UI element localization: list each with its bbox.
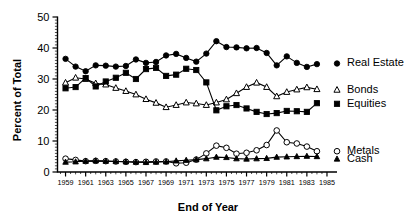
series-equities xyxy=(63,65,320,116)
y-tick-label: 50 xyxy=(37,11,49,23)
marker-filled-circle xyxy=(153,59,158,64)
marker-filled-square xyxy=(63,86,68,91)
marker-filled-circle xyxy=(264,50,269,55)
marker-filled-circle xyxy=(73,64,78,69)
y-tick-label: 10 xyxy=(37,135,49,147)
marker-filled-square xyxy=(184,66,189,71)
x-tick-label: 1969 xyxy=(158,178,174,187)
marker-filled-circle xyxy=(143,60,148,65)
series-real-estate xyxy=(63,38,320,73)
marker-filled-square xyxy=(93,84,98,89)
x-tick-label: 1961 xyxy=(78,178,94,187)
series-line xyxy=(66,68,317,114)
x-tick-labels: 1959196119631965196719691971197319751977… xyxy=(58,178,335,187)
marker-filled-circle xyxy=(254,45,259,50)
marker-filled-circle xyxy=(194,59,199,64)
x-tick-label: 1983 xyxy=(299,178,315,187)
y-tick-label: 0 xyxy=(43,166,49,178)
marker-open-triangle xyxy=(223,96,229,102)
marker-filled-square xyxy=(254,109,259,114)
marker-filled-circle xyxy=(314,61,319,66)
legend-label: Equities xyxy=(347,97,387,109)
legend-group: Real EstateBondsEquitiesMetalsCash xyxy=(334,56,404,163)
x-axis-title: End of Year xyxy=(178,201,239,213)
marker-filled-circle xyxy=(294,60,299,65)
marker-filled-square xyxy=(83,75,88,80)
marker-filled-square xyxy=(214,108,219,113)
legend-label: Real Estate xyxy=(347,56,404,68)
marker-filled-circle xyxy=(133,57,138,62)
marker-filled-square xyxy=(73,84,78,89)
x-tick-label: 1965 xyxy=(118,178,134,187)
marker-open-triangle xyxy=(233,90,239,96)
marker-open-circle xyxy=(334,148,340,154)
legend-item-bonds: Bonds xyxy=(334,83,379,95)
marker-filled-circle xyxy=(103,63,108,68)
marker-filled-circle xyxy=(234,45,239,50)
marker-filled-circle xyxy=(304,64,309,69)
x-tick-label: 1971 xyxy=(178,178,194,187)
marker-open-triangle xyxy=(254,79,260,85)
marker-filled-circle xyxy=(63,56,68,61)
marker-open-circle xyxy=(254,148,260,154)
marker-filled-triangle xyxy=(334,156,340,161)
x-tick-label: 1977 xyxy=(239,178,255,187)
marker-filled-circle xyxy=(334,61,339,66)
marker-open-triangle xyxy=(73,74,79,80)
marker-filled-square xyxy=(274,111,279,116)
y-tick-labels: 01020304050 xyxy=(37,11,49,178)
y-tick-label: 20 xyxy=(37,104,49,116)
marker-filled-circle xyxy=(93,63,98,68)
marker-filled-circle xyxy=(113,64,118,69)
marker-filled-circle xyxy=(274,63,279,68)
marker-open-circle xyxy=(214,143,220,149)
y-axis-title: Percent of Total xyxy=(11,59,23,141)
marker-filled-circle xyxy=(83,69,88,74)
y-tick-label: 40 xyxy=(37,42,49,54)
marker-open-triangle xyxy=(304,84,310,90)
marker-open-circle xyxy=(304,144,310,150)
marker-filled-square xyxy=(224,104,229,109)
marker-filled-circle xyxy=(214,38,219,43)
marker-open-circle xyxy=(244,150,250,156)
marker-filled-circle xyxy=(284,54,289,59)
chart-container: 01020304050 1959196119631965196719691971… xyxy=(0,0,417,219)
x-tick-label: 1967 xyxy=(138,178,154,187)
series-group xyxy=(63,38,320,166)
legend-item-cash: Cash xyxy=(334,152,372,164)
legend-item-equities: Equities xyxy=(334,97,386,109)
y-tick-label: 30 xyxy=(37,73,49,85)
marker-filled-square xyxy=(194,67,199,72)
marker-open-circle xyxy=(224,145,230,151)
x-tick-label: 1963 xyxy=(98,178,114,187)
marker-open-triangle xyxy=(183,99,189,105)
legend-item-real-estate: Real Estate xyxy=(334,56,404,68)
marker-filled-square xyxy=(123,70,128,75)
series-cash xyxy=(63,153,320,164)
marker-filled-circle xyxy=(173,51,178,56)
marker-filled-square xyxy=(174,72,179,77)
series-bonds xyxy=(63,74,320,109)
marker-filled-square xyxy=(163,73,168,78)
marker-open-circle xyxy=(284,139,290,145)
marker-filled-circle xyxy=(163,53,168,58)
marker-filled-square xyxy=(284,108,289,113)
x-tick-label: 1975 xyxy=(218,178,234,187)
x-tick-label: 1959 xyxy=(58,178,74,187)
marker-filled-square xyxy=(153,65,158,70)
marker-filled-square xyxy=(143,66,148,71)
x-tick-label: 1981 xyxy=(279,178,295,187)
axes-group xyxy=(53,17,338,177)
marker-open-circle xyxy=(294,141,300,147)
marker-filled-square xyxy=(234,102,239,107)
marker-filled-square xyxy=(334,101,339,106)
marker-filled-square xyxy=(133,76,138,81)
marker-filled-square xyxy=(244,106,249,111)
marker-filled-square xyxy=(314,101,319,106)
marker-filled-circle xyxy=(184,55,189,60)
legend-label: Bonds xyxy=(347,83,379,95)
x-tick-label: 1973 xyxy=(198,178,214,187)
marker-filled-circle xyxy=(204,51,209,56)
marker-open-circle xyxy=(264,142,270,148)
marker-open-circle xyxy=(274,128,280,134)
